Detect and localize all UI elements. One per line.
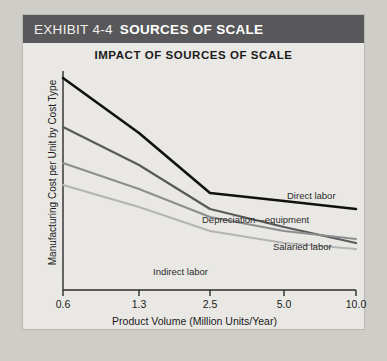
y-axis-title: Manufacturing Cost per Unit by Cost Type [47, 73, 58, 273]
series-label-salaried-labor: Salaried labor [273, 241, 332, 252]
x-tick-label-0: 0.6 [56, 298, 71, 310]
x-axis-title: Product Volume (Million Units/Year) [23, 315, 366, 327]
exhibit-figure: EXHIBIT 4-4 SOURCES OF SCALE IMPACT OF S… [22, 14, 365, 330]
series-label-depreciation-equipment: Depreciation—equipment [202, 214, 309, 225]
line-chart-svg [23, 15, 366, 331]
x-tick-label-4: 10.0 [346, 298, 366, 310]
series-line-depreciation-equipment [63, 127, 356, 243]
x-tick-label-2: 2.5 [203, 298, 218, 310]
chart-plot-area: Manufacturing Cost per Unit by Cost Type… [23, 15, 366, 331]
series-label-direct-labor: Direct labor [287, 190, 336, 201]
series-label-indirect-labor: Indirect labor [153, 266, 208, 277]
x-tick-label-3: 5.0 [277, 298, 292, 310]
chart-axes [63, 71, 356, 296]
x-tick-label-1: 1.3 [132, 298, 147, 310]
series-line-salaried-labor [63, 163, 356, 239]
